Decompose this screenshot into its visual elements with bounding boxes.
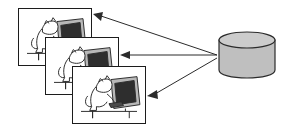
arrowhead-client-1	[93, 12, 103, 21]
database-cylinder[interactable]: Database	[217, 30, 277, 80]
arrowhead-client-2	[120, 51, 130, 59]
client-frame-3[interactable]: Workstation 3	[72, 66, 146, 124]
cat-at-computer-icon	[73, 67, 145, 123]
cylinder-icon	[217, 30, 277, 80]
diagram-canvas: Client workstations connected to a centr…	[0, 0, 297, 138]
diagram-scene: Workstation 1	[0, 0, 297, 138]
arrowhead-client-3	[147, 90, 158, 99]
connector-line-client-3	[155, 58, 217, 94]
